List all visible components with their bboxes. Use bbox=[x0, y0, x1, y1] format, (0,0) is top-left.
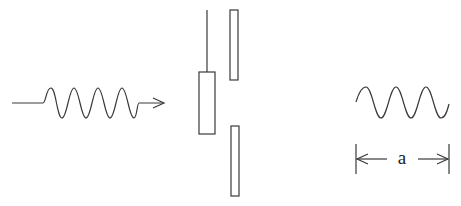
reference-wave bbox=[356, 87, 449, 118]
reference-wave-path bbox=[356, 87, 449, 118]
dimension-marker: a bbox=[356, 144, 449, 174]
wave-path bbox=[12, 88, 164, 118]
wave-slit-diagram: a bbox=[0, 0, 461, 206]
left-plate bbox=[199, 72, 215, 134]
slit-assembly bbox=[199, 10, 239, 196]
upper-right-plate bbox=[230, 10, 238, 80]
dimension-label: a bbox=[398, 147, 407, 168]
incoming-wave bbox=[12, 88, 164, 118]
lower-right-plate bbox=[231, 126, 239, 196]
